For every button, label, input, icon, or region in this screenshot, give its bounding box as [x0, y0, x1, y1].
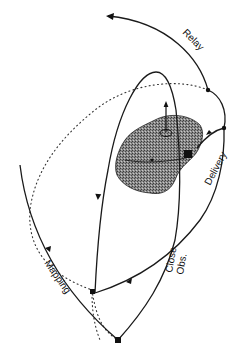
- lander-square-icon: [184, 150, 192, 158]
- close-obs-orbit: [95, 72, 180, 340]
- label-mapping: Mapping: [42, 258, 73, 296]
- label-close-obs-line2: Obs.: [174, 253, 189, 276]
- relay-direction-arrow: [106, 13, 114, 20]
- node-delivery-transition: [222, 126, 226, 130]
- node-relay-transition: [206, 88, 210, 92]
- equator-marker: [150, 158, 153, 161]
- close-obs-direction-arrow: [95, 194, 101, 200]
- node-mapping-transition: [90, 289, 95, 294]
- dotted-orbit-lower: [92, 290, 118, 340]
- node-bottom-transition: [115, 337, 121, 343]
- label-delivery: Delivery: [202, 150, 229, 187]
- orbit-diagram: Relay Delivery Close Obs. Mapping: [0, 0, 241, 351]
- label-relay: Relay: [181, 27, 207, 53]
- mapping-orbit: [20, 165, 118, 340]
